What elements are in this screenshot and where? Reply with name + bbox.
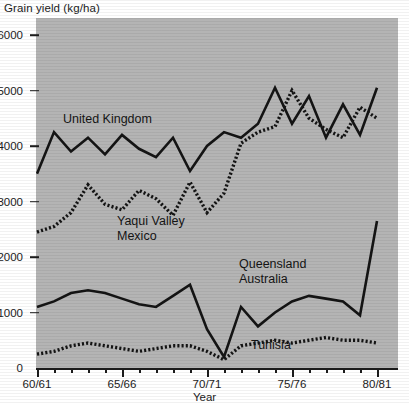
x-axis-major-tick — [122, 368, 124, 377]
y-axis-tick-mark — [30, 256, 39, 258]
x-axis-minor-tick — [139, 368, 141, 373]
y-axis-tick-label: 3000 — [0, 196, 23, 208]
series-label-yaqui-valley: Yaqui Valley Mexico — [117, 214, 185, 244]
y-axis-tick-mark — [30, 312, 39, 314]
y-axis-tick-mark — [30, 201, 39, 203]
x-axis-major-tick — [377, 368, 379, 377]
x-axis-tick-label: 65/66 — [108, 378, 137, 390]
x-axis-minor-tick — [224, 368, 226, 373]
y-axis-tick-label: 4000 — [0, 140, 23, 152]
series-label-queensland-line1: Queensland — [239, 257, 306, 272]
x-axis-minor-tick — [156, 368, 158, 373]
x-axis-tick-label: 75/76 — [278, 378, 307, 390]
plot-area — [36, 18, 398, 368]
x-axis-minor-tick — [360, 368, 362, 373]
x-axis-minor-tick — [54, 368, 56, 373]
x-axis-major-tick — [292, 368, 294, 377]
x-axis-minor-tick — [258, 368, 260, 373]
series-label-queensland: Queensland Australia — [239, 257, 306, 287]
y-axis-tick-mark — [30, 34, 39, 36]
series-label-united-kingdom: United Kingdom — [63, 112, 152, 127]
y-axis: 0100020003000400050006000 — [0, 0, 36, 403]
series-label-yaqui-valley-line2: Mexico — [117, 229, 185, 244]
y-axis-tick-label: 0 — [17, 362, 23, 374]
x-axis-minor-tick — [326, 368, 328, 373]
x-axis-major-tick — [207, 368, 209, 377]
x-axis-tick-label: 80/81 — [363, 378, 392, 390]
x-axis-tick-label: 60/61 — [23, 378, 52, 390]
series-label-yaqui-valley-line1: Yaqui Valley — [117, 214, 185, 229]
x-axis-minor-tick — [275, 368, 277, 373]
x-axis-minor-tick — [343, 368, 345, 373]
x-axis-minor-tick — [88, 368, 90, 373]
series-label-queensland-line2: Australia — [239, 272, 306, 287]
x-axis-minor-tick — [71, 368, 73, 373]
chart-figure: Grain yield (kg/ha) 01000200030004000500… — [0, 0, 409, 403]
series-label-tunisia: Tunisia — [251, 338, 291, 353]
x-axis-major-tick — [37, 368, 39, 377]
x-axis-tick-label: 70/71 — [193, 378, 222, 390]
y-axis-tick-label: 5000 — [0, 85, 23, 97]
x-axis-minor-tick — [309, 368, 311, 373]
x-axis-minor-tick — [105, 368, 107, 373]
series-line — [37, 221, 377, 357]
x-axis-title: Year — [0, 391, 409, 403]
series-line — [37, 337, 377, 359]
x-axis-minor-tick — [190, 368, 192, 373]
y-axis-tick-mark — [30, 90, 39, 92]
y-axis-tick-label: 1000 — [0, 307, 23, 319]
x-axis-minor-tick — [173, 368, 175, 373]
series-canvas — [36, 18, 398, 368]
y-axis-tick-label: 6000 — [0, 29, 23, 41]
y-axis-tick-label: 2000 — [0, 251, 23, 263]
x-axis-minor-tick — [241, 368, 243, 373]
y-axis-tick-mark — [30, 145, 39, 147]
